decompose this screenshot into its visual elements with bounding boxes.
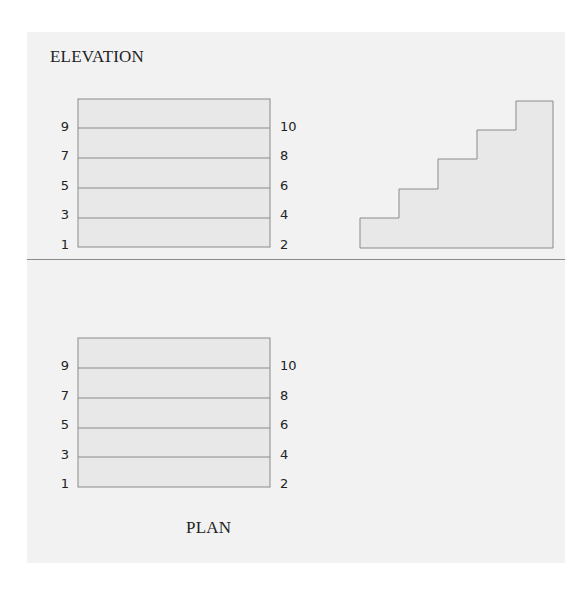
elevation-label-right: 6: [280, 178, 288, 193]
diagram-panel: ELEVATION 9 7 5 3 1 10 8 6 4 2 9 7 5 3 1: [27, 32, 565, 563]
plan-label-right: 10: [280, 358, 297, 373]
plan-label-left: 9: [49, 358, 69, 373]
elevation-label-left: 3: [49, 207, 69, 222]
elevation-label-right: 2: [280, 237, 288, 252]
plan-label-right: 4: [280, 447, 288, 462]
plan-label-left: 3: [49, 447, 69, 462]
diagram-drawing: [27, 32, 565, 563]
elevation-stack: [78, 99, 270, 247]
plan-label-right: 6: [280, 417, 288, 432]
plan-label-right: 8: [280, 388, 288, 403]
elevation-label-right: 8: [280, 148, 288, 163]
staircase-profile: [360, 101, 553, 248]
plan-title: PLAN: [186, 518, 231, 538]
plan-stack: [78, 338, 270, 487]
elevation-label-left: 5: [49, 178, 69, 193]
plan-label-left: 7: [49, 388, 69, 403]
elevation-label-left: 7: [49, 148, 69, 163]
elevation-label-right: 4: [280, 207, 288, 222]
elevation-label-left: 9: [49, 119, 69, 134]
plan-label-left: 1: [49, 476, 69, 491]
section-divider: [27, 259, 565, 260]
elevation-label-left: 1: [49, 237, 69, 252]
elevation-label-right: 10: [280, 119, 297, 134]
plan-label-left: 5: [49, 417, 69, 432]
plan-label-right: 2: [280, 476, 288, 491]
